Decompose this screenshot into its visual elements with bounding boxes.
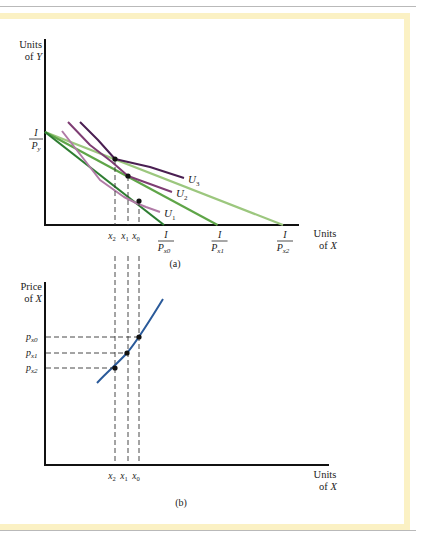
panel-a-xlabel-line1: Units: [314, 228, 337, 239]
y-intercept-num: I: [33, 127, 38, 138]
demand-point-x0: [136, 334, 141, 339]
y-intercept-den: Py: [30, 140, 41, 153]
x-tick-label-b-1: x1: [119, 471, 127, 482]
price-label-x2: px2: [25, 362, 38, 375]
series-curve: [97, 299, 163, 383]
panel-b-xlabel-line1: Units: [314, 469, 337, 480]
panel-a-ylabel-line1: Units: [19, 39, 42, 50]
indifference-label-U2: U2: [176, 187, 188, 202]
indifference-label-U1: U1: [164, 207, 176, 222]
indifference-curve-U2: [68, 122, 172, 192]
budget-intercept-den-x2: Px2: [276, 242, 290, 255]
x-tick-label-x2: x2: [107, 231, 115, 242]
panel-b-ylabel-line2: of X: [24, 293, 42, 304]
panel-b-ylabel-line1: Price: [20, 281, 42, 292]
tangency-point-x1: [125, 173, 130, 178]
caption-b: (b): [175, 497, 187, 509]
x-tick-label-b-0: x0: [131, 471, 139, 482]
panel-a: Units of Y I Py U1U2U3 x2x1x0IPx0IPx1IPx…: [19, 39, 337, 270]
panel-a-xlabel-line2: of X: [319, 240, 337, 251]
budget-intercept-num-x2: I: [282, 229, 287, 240]
economics-figure: Units of Y I Py U1U2U3 x2x1x0IPx0IPx1IPx…: [0, 0, 437, 546]
indifference-label-U3: U3: [188, 173, 200, 188]
price-label-x0: px0: [25, 331, 38, 344]
x-tick-label-b-2: x2: [107, 471, 115, 482]
budget-intercept-num-x1: I: [217, 229, 222, 240]
panel-b-xlabel-line2: of X: [319, 481, 337, 492]
x-tick-label-x1: x1: [120, 231, 128, 242]
budget-intercept-den-x1: Px1: [210, 242, 224, 255]
budget-intercept-num-x0: I: [163, 229, 168, 240]
demand-point-x1: [124, 350, 129, 355]
price-label-x1: px1: [25, 347, 38, 360]
tangency-point-x2: [112, 156, 117, 161]
tangency-point-x0: [136, 198, 141, 203]
demand-point-x2: [112, 365, 117, 370]
y-intercept-label: I Py: [29, 127, 43, 153]
x-tick-label-x0: x0: [131, 231, 139, 242]
caption-a: (a): [169, 258, 180, 270]
budget-intercept-den-x0: Px0: [157, 242, 171, 255]
panel-a-ylabel-line2: of Y: [25, 51, 43, 62]
panel-b: Price of X px2px1px0 x2x1x0 Units of X (…: [20, 281, 337, 509]
